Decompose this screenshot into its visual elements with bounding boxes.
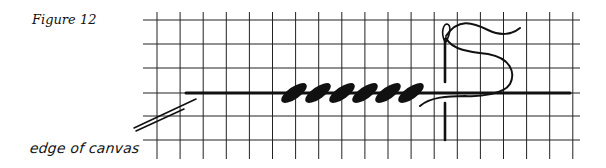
canvas-grid xyxy=(143,12,580,159)
canvas-edge-lines xyxy=(134,99,196,131)
canvas-edge-stroke xyxy=(134,99,196,128)
canvas-edge-stroke xyxy=(136,109,184,131)
stitch-diagram xyxy=(0,0,606,168)
